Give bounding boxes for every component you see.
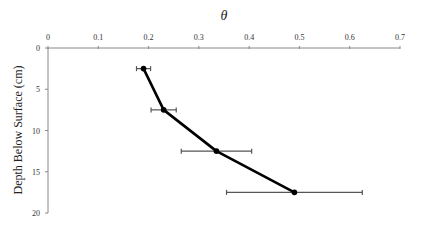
data-point xyxy=(161,107,167,113)
x-tick-label: 0.2 xyxy=(144,33,154,42)
x-axis-title: θ xyxy=(221,8,228,23)
x-tick-label: 0.5 xyxy=(294,33,304,42)
data-point xyxy=(292,190,298,196)
y-tick-label: 20 xyxy=(32,209,40,218)
data-line xyxy=(144,69,295,193)
y-axis-title: Depth Below Surface (cm) xyxy=(11,66,25,195)
x-tick-label: 0.3 xyxy=(194,33,204,42)
x-tick-label: 0.7 xyxy=(395,33,405,42)
data-point xyxy=(214,148,220,154)
data-markers xyxy=(141,66,297,195)
x-tick-label: 0.6 xyxy=(345,33,355,42)
x-tick-label: 0.4 xyxy=(244,33,254,42)
y-tick-label: 10 xyxy=(32,127,40,136)
chart: θ Depth Below Surface (cm) 00.10.20.30.4… xyxy=(0,0,424,230)
x-tick-label: 0.1 xyxy=(93,33,103,42)
y-tick-label: 5 xyxy=(36,85,40,94)
error-bars xyxy=(137,66,363,195)
x-axis: 00.10.20.30.40.50.60.7 xyxy=(46,33,405,49)
y-tick-label: 0 xyxy=(36,44,40,53)
data-point xyxy=(141,66,147,72)
y-axis: 05101520 xyxy=(32,44,48,218)
y-tick-label: 15 xyxy=(32,168,40,177)
x-tick-label: 0 xyxy=(46,33,50,42)
